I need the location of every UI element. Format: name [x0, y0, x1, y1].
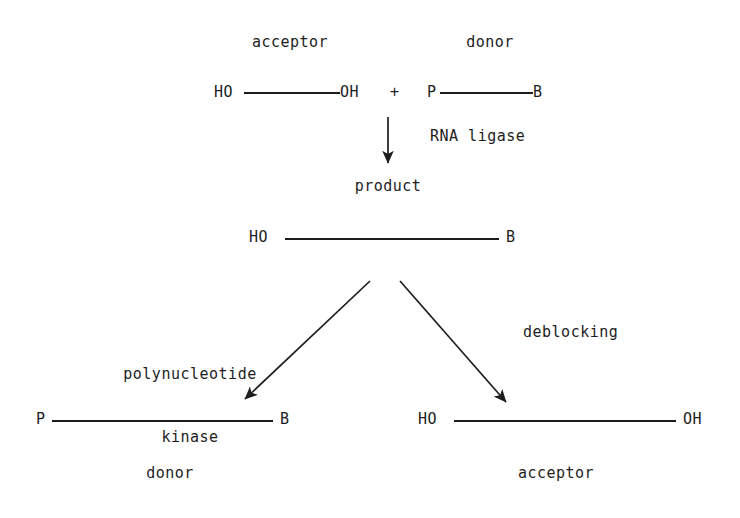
reaction-diagram: acceptor donor HO OH + P B RNA ligase pr…: [0, 0, 740, 518]
product-right-terminus: B: [506, 228, 516, 246]
donor-reactant-label: donor: [466, 32, 514, 52]
polynucleotide-kinase-label-line2: kinase: [123, 427, 256, 448]
donor-left-terminus: P: [427, 83, 437, 101]
acceptor-reactant-label: acceptor: [252, 32, 328, 52]
plus-sign: +: [390, 83, 400, 101]
product-left-terminus: HO: [249, 228, 268, 246]
right-branch-right-terminus: OH: [683, 410, 702, 428]
acceptor-bond-line: [244, 92, 340, 94]
acceptor-right-terminus: OH: [340, 83, 359, 101]
product-label: product: [355, 176, 422, 196]
right-branch-bond-line: [454, 420, 676, 422]
left-branch-left-terminus: P: [36, 410, 46, 428]
product-bond-line: [285, 238, 499, 240]
right-branch-result-label: acceptor: [518, 463, 594, 483]
deblocking-label: deblocking: [523, 322, 618, 342]
left-branch-result-label: donor: [146, 463, 194, 483]
left-branch-bond-line: [52, 420, 273, 422]
rna-ligase-enzyme-label: RNA ligase: [430, 126, 525, 146]
reaction-arrows-layer: [0, 0, 740, 518]
left-branch-right-terminus: B: [280, 410, 290, 428]
donor-bond-line: [440, 92, 533, 94]
deblocking-arrow: [400, 281, 506, 402]
polynucleotide-kinase-arrow: [245, 281, 370, 399]
right-branch-left-terminus: HO: [418, 410, 437, 428]
polynucleotide-kinase-label-line1: polynucleotide: [123, 364, 256, 385]
donor-right-terminus: B: [533, 83, 543, 101]
acceptor-left-terminus: HO: [214, 83, 233, 101]
